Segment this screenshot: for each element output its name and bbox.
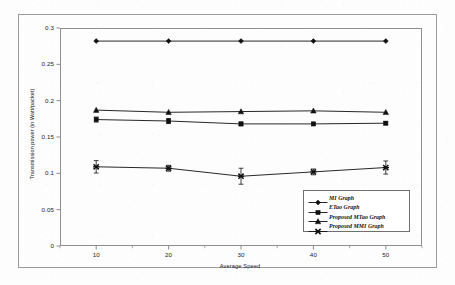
legend-label: MI Graph	[329, 195, 354, 201]
chart-figure: 00.050.10.150.20.250.3 1020304050 Transm…	[0, 0, 455, 285]
legend-label: Proposed MMI Graph	[329, 223, 384, 229]
legend-item: Proposed MMI Graph	[304, 222, 409, 232]
plot-canvas	[0, 0, 455, 285]
triangle-marker-icon	[307, 212, 329, 221]
square-marker-icon	[307, 203, 329, 212]
legend-item: MI Graph	[304, 193, 409, 203]
legend-item: Proposed MTao Graph	[304, 212, 409, 222]
series-mi-graph	[94, 39, 389, 44]
chart-legend: MI GraphETao GraphProposed MTao GraphPro…	[303, 190, 410, 232]
series-proposed-mmi-graph	[93, 161, 389, 185]
legend-label: ETao Graph	[329, 204, 360, 210]
legend-item: ETao Graph	[304, 203, 409, 213]
diamond-marker-icon	[307, 193, 329, 202]
series-etao-graph	[94, 117, 388, 126]
cross-marker-icon	[307, 222, 329, 231]
series-proposed-mtao-graph	[93, 107, 388, 114]
legend-label: Proposed MTao Graph	[329, 214, 385, 220]
